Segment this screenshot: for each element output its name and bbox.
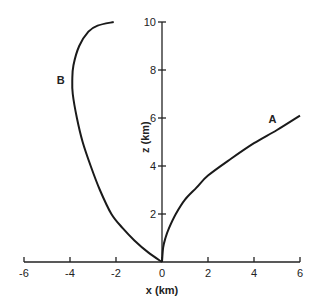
x-axis-label: x (km) (146, 284, 179, 296)
chart: -6-4-20246 246810 AB x (km) z (km) (0, 0, 321, 305)
curve-label-b: B (57, 74, 65, 86)
y-tick-label: 4 (150, 160, 156, 172)
y-ticks: 246810 (144, 16, 166, 220)
curves: AB (57, 22, 300, 262)
axes (24, 22, 300, 262)
x-tick-label: 0 (159, 267, 165, 279)
x-tick-label: -2 (111, 267, 121, 279)
y-tick-label: 8 (150, 64, 156, 76)
y-tick-label: 2 (150, 208, 156, 220)
curve-label-a: A (268, 113, 276, 125)
x-tick-label: 6 (297, 267, 303, 279)
x-tick-label: 2 (205, 267, 211, 279)
y-tick-label: 10 (144, 16, 156, 28)
x-tick-label: -4 (65, 267, 75, 279)
y-axis-label: z (km) (139, 121, 151, 153)
x-tick-label: 4 (251, 267, 257, 279)
curve-a (162, 116, 300, 262)
x-tick-label: -6 (19, 267, 29, 279)
